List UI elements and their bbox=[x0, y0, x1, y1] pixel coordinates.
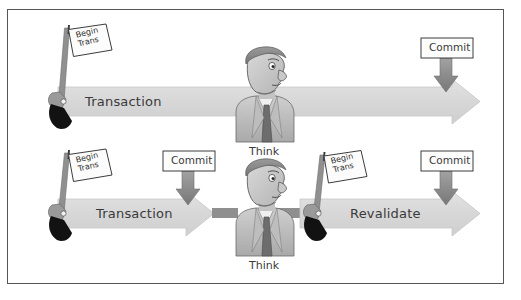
bottom-second-begin-trans-pistol bbox=[303, 152, 327, 241]
bottom-begin-trans-pistol bbox=[48, 150, 72, 241]
bottom-transaction-label: Transaction bbox=[96, 206, 173, 221]
bottom-think-label: Think bbox=[249, 259, 279, 272]
figure-container: Begin Trans Transaction Commit Think Beg… bbox=[0, 0, 521, 300]
bottom-revalidate-label: Revalidate bbox=[350, 206, 421, 221]
bottom-mid-commit-label: Commit bbox=[171, 154, 212, 166]
connector-stub-left bbox=[212, 208, 238, 218]
top-transaction-label: Transaction bbox=[85, 94, 162, 109]
top-commit-label: Commit bbox=[429, 41, 470, 53]
bottom-think-person bbox=[236, 159, 294, 256]
top-think-label: Think bbox=[249, 145, 279, 158]
bottom-right-commit-label: Commit bbox=[429, 154, 470, 166]
